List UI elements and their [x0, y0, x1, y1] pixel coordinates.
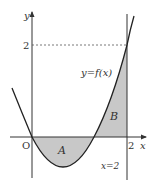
x-tick-2: 2: [128, 140, 134, 151]
y-axis-arrow: [30, 11, 35, 17]
x-axis-arrow: [141, 135, 147, 140]
x-axis-label: x: [140, 140, 146, 151]
y-axis-label: y: [23, 10, 30, 21]
graph: y x O 2 2 y=f(x) A B x=2: [0, 0, 153, 188]
region-a-label: A: [57, 144, 66, 157]
y-tick-2: 2: [23, 40, 29, 51]
function-label: y=f(x): [80, 67, 112, 78]
origin-label: O: [22, 140, 30, 151]
region-b-shade: [94, 45, 127, 137]
x-equals-2-label: x=2: [101, 161, 120, 171]
region-b-label: B: [109, 110, 118, 123]
